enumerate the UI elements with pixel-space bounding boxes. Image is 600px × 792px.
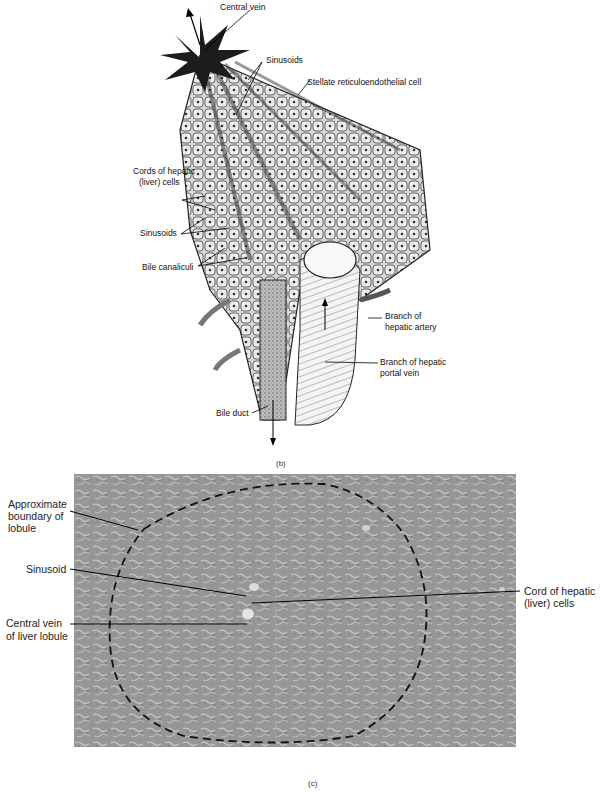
label-boundary-line3: lobule: [8, 522, 36, 534]
label-hepatic-artery-line1: Branch of: [385, 311, 421, 321]
label-boundary-line1: Approximate: [8, 498, 67, 510]
label-bile-canaliculi: Bile canaliculi: [142, 262, 194, 272]
label-portal-vein-line1: Branch of hepatic: [380, 357, 446, 367]
label-central-vein: Central vein: [220, 2, 265, 12]
label-central-vein-line2: of liver lobule: [6, 630, 68, 642]
label-cords-hepatic-line2: (liver) cells: [139, 177, 180, 187]
liver-lobule-illustration: [0, 0, 600, 470]
label-cord-line1: Cord of hepatic: [524, 585, 595, 597]
label-boundary-line2: boundary of: [8, 510, 63, 522]
label-hepatic-artery-line2: hepatic artery: [385, 322, 437, 332]
caption-c: (c): [308, 779, 317, 788]
label-cords-hepatic-line1: Cords of hepatic: [133, 166, 195, 176]
label-central-vein-line1: Central vein: [6, 617, 62, 629]
caption-b: (b): [276, 459, 286, 468]
label-sinusoids-left: Sinusoids: [140, 228, 177, 238]
micrograph-texture: [74, 474, 516, 747]
label-sinusoid: Sinusoid: [26, 563, 66, 575]
label-bile-duct: Bile duct: [216, 408, 249, 418]
label-portal-vein-line2: portal vein: [380, 368, 419, 378]
micrograph-liver-lobule: [74, 474, 516, 747]
label-sinusoids-top: Sinusoids: [266, 55, 303, 65]
label-cord-line2: (liver) cells: [524, 597, 574, 609]
label-stellate-reticuloendothelial-cell: Stellate reticuloendothelial cell: [307, 77, 421, 87]
